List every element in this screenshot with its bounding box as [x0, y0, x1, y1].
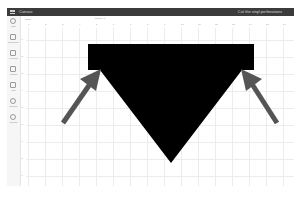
canvas-overlay [0, 0, 294, 198]
arrow-left-icon [63, 69, 101, 123]
arrow-right-icon [241, 69, 277, 123]
inverted-triangle-shape[interactable] [88, 44, 254, 163]
